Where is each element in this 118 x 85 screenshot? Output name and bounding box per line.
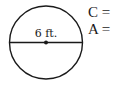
center-point: [44, 41, 48, 45]
circumference-formula: C =: [88, 5, 110, 20]
area-formula: A =: [88, 22, 110, 37]
diameter-label: 6 ft.: [35, 27, 57, 40]
